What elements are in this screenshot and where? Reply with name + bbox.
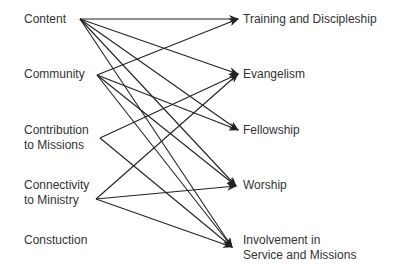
edge-arrow xyxy=(80,19,238,130)
source-node-label: Contributionto Missions xyxy=(24,123,89,153)
target-node-label: Involvement inService and Missions xyxy=(243,233,356,263)
edge-arrow xyxy=(96,186,236,199)
source-node-label: Content xyxy=(24,12,66,27)
edge-arrow xyxy=(97,75,236,186)
edge-arrow xyxy=(80,19,236,186)
target-node-label: Fellowship xyxy=(243,123,300,138)
target-node-label: Worship xyxy=(243,178,287,193)
edge-arrow xyxy=(96,74,238,199)
edge-arrow xyxy=(96,199,232,247)
source-node-label: Community xyxy=(24,67,85,82)
target-node-label: Evangelism xyxy=(243,67,305,82)
target-node-label: Training and Discipleship xyxy=(243,12,377,27)
source-node-label: Connectivityto Ministry xyxy=(24,178,89,208)
edge-arrow xyxy=(80,19,238,74)
diagram: ContentCommunityContributionto MissionsC… xyxy=(0,0,409,274)
source-node-label: Constuction xyxy=(24,233,87,248)
edge-arrow xyxy=(80,19,232,247)
